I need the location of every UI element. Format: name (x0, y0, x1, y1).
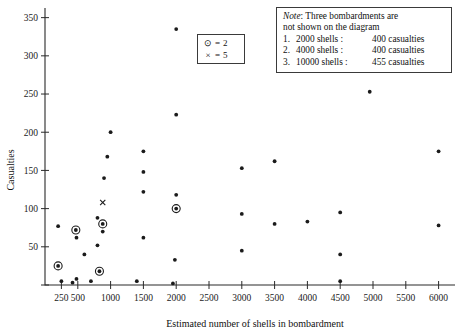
svg-text:100: 100 (24, 204, 39, 214)
note-item-3-number: 3. (283, 57, 296, 68)
note-box: Note: Three bombardments are not shown o… (276, 7, 452, 73)
scatter-chart: 5010015020025030035025050010001500200025… (0, 0, 464, 335)
legend-row-cross: × = 5 (202, 49, 241, 61)
legend-label-2: = 2 (215, 37, 228, 49)
svg-text:350: 350 (24, 13, 39, 23)
svg-text:300: 300 (24, 51, 39, 61)
svg-text:150: 150 (24, 166, 39, 176)
svg-text:5500: 5500 (396, 293, 415, 303)
note-item-1-shells: 2000 shells : (296, 34, 372, 45)
svg-text:5000: 5000 (364, 293, 383, 303)
legend-row-ringed-dot: ⊙ = 2 (202, 37, 241, 49)
svg-text:50: 50 (29, 242, 39, 252)
svg-text:3000: 3000 (232, 293, 251, 303)
note-label: Note (283, 11, 301, 21)
svg-text:250: 250 (54, 293, 69, 303)
x-axis-title: Estimated number of shells in bombardmen… (166, 318, 344, 329)
cross-icon: × (202, 49, 214, 61)
legend-label-5: = 5 (215, 49, 228, 61)
note-item-3: 3. 10000 shells : 455 casualties (283, 57, 446, 68)
note-item-1-number: 1. (283, 34, 296, 45)
note-item-1: 1. 2000 shells : 400 casualties (283, 34, 446, 45)
svg-text:200: 200 (24, 128, 39, 138)
svg-text:4000: 4000 (298, 293, 317, 303)
note-heading: Note: Three bombardments are (283, 11, 446, 22)
note-item-2-casualties: 400 casualties (372, 45, 424, 56)
note-item-3-casualties: 455 casualties (372, 57, 424, 68)
note-item-2: 2. 4000 shells : 400 casualties (283, 45, 446, 56)
svg-text:250: 250 (24, 89, 39, 99)
note-heading-text: : Three bombardments are (301, 11, 399, 21)
note-heading-line2: not shown on the diagram (283, 22, 446, 33)
svg-text:3500: 3500 (265, 293, 284, 303)
legend: ⊙ = 2 × = 5 (197, 34, 245, 64)
note-item-2-number: 2. (283, 45, 296, 56)
svg-text:4500: 4500 (331, 293, 350, 303)
svg-text:1500: 1500 (134, 293, 153, 303)
ringed-dot-icon: ⊙ (202, 37, 214, 49)
svg-text:500: 500 (71, 293, 86, 303)
note-item-2-shells: 4000 shells : (296, 45, 372, 56)
y-axis-title: Casualties (5, 149, 16, 190)
note-item-3-shells: 10000 shells : (296, 57, 372, 68)
svg-text:1000: 1000 (101, 293, 120, 303)
svg-text:2500: 2500 (200, 293, 219, 303)
svg-text:2000: 2000 (167, 293, 186, 303)
note-item-1-casualties: 400 casualties (372, 34, 424, 45)
svg-text:6000: 6000 (429, 293, 448, 303)
